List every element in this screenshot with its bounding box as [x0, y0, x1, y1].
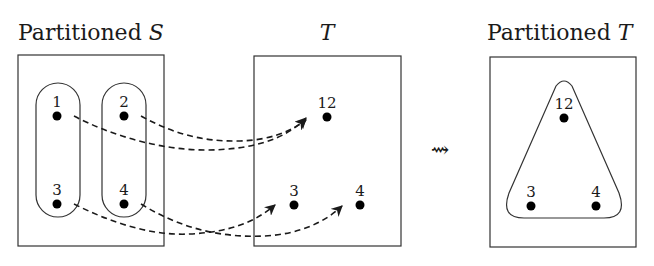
- pt-point-label-4: 4: [591, 183, 601, 201]
- point-label-3: 3: [52, 181, 62, 199]
- set-s-box: [18, 55, 164, 246]
- t-point-3: [290, 201, 299, 210]
- t-point-label-4: 4: [355, 182, 365, 200]
- t-point-12: [323, 113, 332, 122]
- pt-point-4: [592, 202, 601, 211]
- leads-to-symbol: ⇝: [431, 137, 449, 162]
- point-label-4: 4: [119, 181, 129, 199]
- title-partitioned-t: Partitioned T: [487, 20, 635, 45]
- point-2: [120, 112, 129, 121]
- t-point-label-3: 3: [289, 182, 299, 200]
- point-label-2: 2: [119, 93, 129, 111]
- pt-point-label-3: 3: [526, 183, 536, 201]
- arrow-2-to-12: [141, 116, 306, 141]
- t-point-4: [356, 201, 365, 210]
- panel-t: T 12 3 4: [254, 20, 401, 246]
- pt-point-3: [527, 202, 536, 211]
- t-point-label-12: 12: [317, 94, 336, 112]
- point-label-1: 1: [52, 93, 62, 111]
- panel-partitioned-t: Partitioned T 12 3 4: [487, 20, 636, 247]
- title-t: T: [320, 20, 337, 45]
- mapping-arrows: [74, 116, 342, 236]
- point-4: [120, 200, 129, 209]
- point-1: [53, 112, 62, 121]
- arrow-4-to-4: [141, 204, 342, 236]
- point-3: [53, 200, 62, 209]
- arrow-1-to-12: [74, 116, 306, 150]
- pt-point-12: [560, 114, 569, 123]
- arrow-3-to-3: [74, 204, 275, 234]
- partition-diagram: Partitioned S 1 2 3 4 T 12 3 4 ⇝ Partiti…: [0, 0, 654, 266]
- title-partitioned-s: Partitioned S: [18, 20, 164, 45]
- panel-partitioned-s: Partitioned S 1 2 3 4: [18, 20, 164, 246]
- pt-point-label-12: 12: [554, 95, 573, 113]
